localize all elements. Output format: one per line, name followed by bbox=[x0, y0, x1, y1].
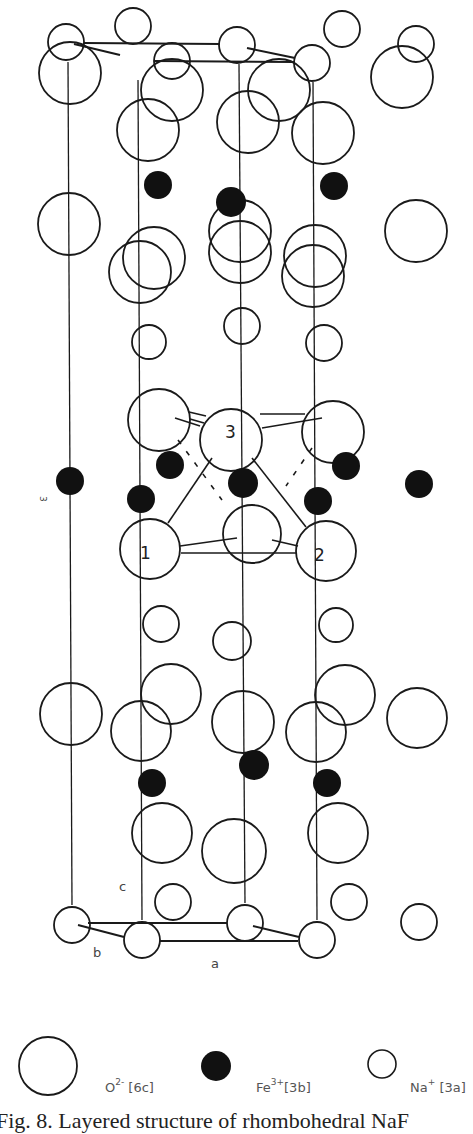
sodium-atom-icon bbox=[227, 905, 263, 941]
sodium-atom-icon bbox=[115, 8, 151, 44]
oxygen-atom-icon bbox=[223, 505, 281, 563]
unit-cell-lines bbox=[68, 62, 317, 920]
sodium-atom-icon bbox=[398, 26, 434, 62]
sodium-atom-icon bbox=[331, 884, 367, 920]
iron-atom-icon bbox=[127, 485, 155, 513]
atom-number-3: 3 bbox=[225, 422, 236, 442]
iron-atom-icon bbox=[405, 470, 433, 498]
top-cell-face bbox=[74, 43, 295, 62]
oxygen-atom-icon bbox=[315, 665, 375, 725]
oxygen-atom-icon bbox=[302, 401, 364, 463]
sodium-atom-icon bbox=[294, 45, 330, 81]
sodium-atom-icon bbox=[132, 325, 166, 359]
iron-atom-icon bbox=[304, 487, 332, 515]
axis-label-side: 3 bbox=[38, 496, 48, 502]
sodium-atom-icon bbox=[401, 904, 437, 940]
sodium-atom-icon bbox=[213, 622, 251, 660]
sodium-atom-icon bbox=[143, 606, 179, 642]
atom-number-1: 1 bbox=[140, 543, 151, 563]
legend-sodium-label: Na+ [3a] bbox=[410, 1077, 466, 1095]
oxygen-atom-icon bbox=[109, 241, 171, 303]
axis-label-c: c bbox=[119, 879, 126, 894]
legend-sodium-icon bbox=[368, 1050, 396, 1078]
legend: O2- [6c] Fe3+[3b] Na+ [3a] bbox=[19, 1037, 466, 1095]
bottom-cell-face bbox=[78, 923, 299, 941]
iron-atoms bbox=[56, 171, 433, 797]
oxygen-atom-icon bbox=[385, 200, 447, 262]
oxygen-atom-icon bbox=[387, 688, 447, 748]
sodium-atom-icon bbox=[324, 11, 360, 47]
sodium-atom-icon bbox=[299, 922, 335, 958]
sodium-atom-icon bbox=[306, 325, 342, 361]
iron-atom-icon bbox=[239, 750, 269, 780]
legend-iron-icon bbox=[201, 1051, 231, 1081]
iron-atom-icon bbox=[313, 769, 341, 797]
oxygen-atom-icon bbox=[248, 59, 310, 121]
legend-oxygen-label: O2- [6c] bbox=[105, 1077, 154, 1095]
sodium-atom-icon bbox=[319, 608, 353, 642]
oxygen-atom-icon bbox=[39, 42, 101, 104]
iron-atom-icon bbox=[332, 452, 360, 480]
iron-atom-icon bbox=[216, 187, 246, 217]
iron-atom-icon bbox=[56, 467, 84, 495]
oxygen-atom-icon bbox=[202, 819, 266, 883]
sodium-atom-icon bbox=[224, 308, 260, 344]
axis-label-a: a bbox=[211, 956, 219, 971]
legend-oxygen-icon bbox=[19, 1037, 77, 1095]
sodium-atom-icon bbox=[54, 907, 90, 943]
oxygen-atom-icon bbox=[141, 664, 201, 724]
atom-number-2: 2 bbox=[314, 545, 325, 565]
oxygen-atom-icon bbox=[123, 227, 185, 289]
figure-caption: Fig. 8. Layered structure of rhombohedra… bbox=[0, 1108, 473, 1134]
oxygen-atom-icon bbox=[217, 91, 279, 153]
iron-atom-icon bbox=[228, 468, 258, 498]
sodium-atom-icon bbox=[155, 884, 191, 920]
iron-atom-icon bbox=[156, 451, 184, 479]
iron-atom-icon bbox=[138, 769, 166, 797]
oxygen-atom-icon bbox=[296, 521, 356, 581]
sodium-atom-icon bbox=[124, 922, 160, 958]
iron-atom-icon bbox=[144, 171, 172, 199]
legend-iron-label: Fe3+[3b] bbox=[256, 1077, 311, 1095]
iron-atom-icon bbox=[320, 172, 348, 200]
sodium-atom-icon bbox=[219, 27, 255, 63]
axis-label-b: b bbox=[93, 945, 101, 960]
